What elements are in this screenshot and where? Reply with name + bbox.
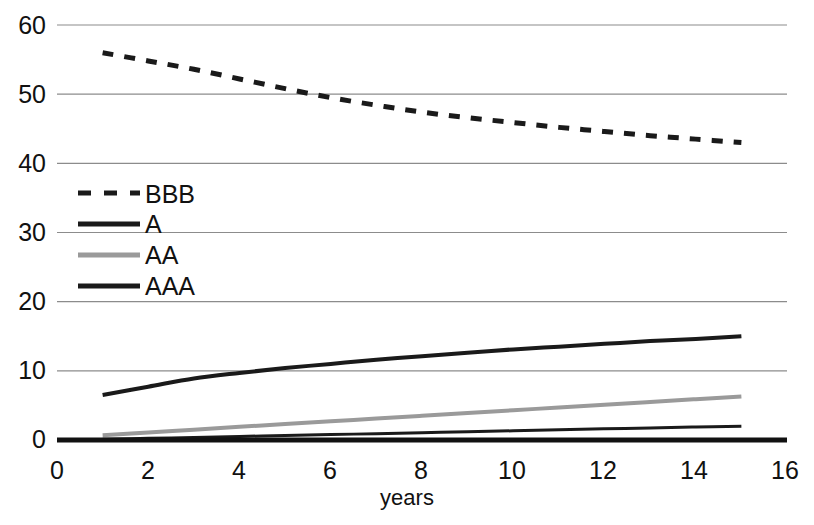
x-tick-label-0: 0 — [27, 458, 87, 483]
line-chart-canvas — [0, 0, 814, 525]
x-tick-label-16: 16 — [755, 458, 814, 483]
y-tick-label-60: 60 — [0, 13, 46, 38]
x-tick-label-10: 10 — [482, 458, 542, 483]
series-line-a — [103, 336, 742, 395]
x-tick-label-4: 4 — [209, 458, 269, 483]
y-tick-label-40: 40 — [0, 151, 46, 176]
y-tick-label-50: 50 — [0, 82, 46, 107]
series-group — [103, 53, 742, 440]
y-tick-label-30: 30 — [0, 220, 46, 245]
x-tick-label-12: 12 — [573, 458, 633, 483]
x-axis-title: years — [0, 487, 814, 509]
x-tick-label-8: 8 — [391, 458, 451, 483]
chart-figure: 60 50 40 30 20 10 0 0 2 4 6 8 10 12 14 1… — [0, 0, 814, 525]
legend-label-aa: AA — [145, 243, 178, 268]
legend-swatch-group — [78, 193, 140, 286]
series-line-bbb — [103, 53, 742, 143]
y-tick-label-10: 10 — [0, 358, 46, 383]
y-tick-label-0: 0 — [0, 427, 46, 452]
x-tick-label-14: 14 — [664, 458, 724, 483]
y-tick-label-20: 20 — [0, 289, 46, 314]
legend-label-bbb: BBB — [145, 182, 195, 207]
legend-label-aaa: AAA — [145, 274, 195, 299]
x-tick-label-2: 2 — [118, 458, 178, 483]
legend-label-a: A — [145, 212, 162, 237]
x-tick-label-6: 6 — [300, 458, 360, 483]
